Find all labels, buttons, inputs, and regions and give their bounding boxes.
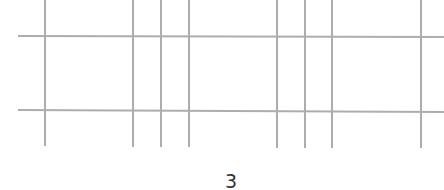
vertical-lines	[45, 0, 421, 148]
horizontal-line-1	[18, 36, 444, 37]
page-number: 3	[0, 170, 444, 190]
grid-diagram	[0, 0, 444, 190]
horizontal-lines	[18, 36, 444, 112]
horizontal-line-2	[18, 110, 444, 112]
